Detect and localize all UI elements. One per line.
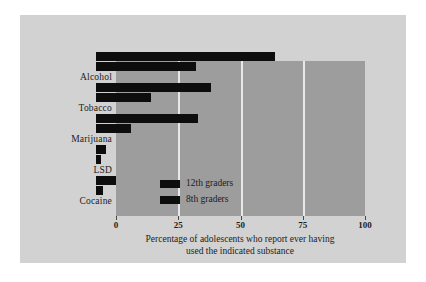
figure-panel: AlcoholTobaccoMarijuanaLSDCocaine 025507… — [20, 15, 406, 263]
bar-tobacco-12th-graders — [96, 83, 211, 92]
caption-line-2: used the indicated substance — [80, 245, 400, 257]
tick-label-50: 50 — [236, 220, 245, 230]
category-label-marijuana: Marijuana — [44, 134, 112, 144]
bar-cocaine-8th-graders — [96, 186, 103, 195]
tick-label-100: 100 — [358, 220, 372, 230]
bar-tobacco-8th-graders — [96, 93, 151, 102]
legend-swatch-icon — [160, 196, 180, 204]
tick-label-0: 0 — [114, 220, 119, 230]
legend-swatch-icon — [160, 180, 180, 188]
bar-lsd-12th-graders — [96, 145, 106, 154]
caption-line-1: Percentage of adolescents who report eve… — [80, 233, 400, 245]
category-label-cocaine: Cocaine — [44, 196, 112, 206]
bar-alcohol-8th-graders — [96, 62, 196, 71]
bar-alcohol-12th-graders — [96, 52, 275, 61]
tick-label-75: 75 — [298, 220, 307, 230]
tick-label-25: 25 — [174, 220, 183, 230]
bar-cocaine-12th-graders — [96, 176, 116, 185]
category-label-lsd: LSD — [44, 165, 112, 175]
bar-marijuana-12th-graders — [96, 114, 198, 123]
bar-marijuana-8th-graders — [96, 124, 131, 133]
chart-legend: 12th graders8th graders — [160, 177, 270, 209]
bar-lsd-8th-graders — [96, 155, 101, 164]
gridline-75 — [303, 61, 305, 216]
legend-label: 12th graders — [186, 177, 233, 190]
legend-item: 8th graders — [160, 193, 270, 207]
legend-item: 12th graders — [160, 177, 270, 191]
category-label-tobacco: Tobacco — [44, 103, 112, 113]
category-label-alcohol: Alcohol — [44, 72, 112, 82]
legend-label: 8th graders — [186, 193, 228, 206]
axis-caption: Percentage of adolescents who report eve… — [80, 233, 400, 257]
value-axis: 0255075100 — [116, 216, 365, 232]
chart-screenshot: AlcoholTobaccoMarijuanaLSDCocaine 025507… — [0, 0, 426, 282]
